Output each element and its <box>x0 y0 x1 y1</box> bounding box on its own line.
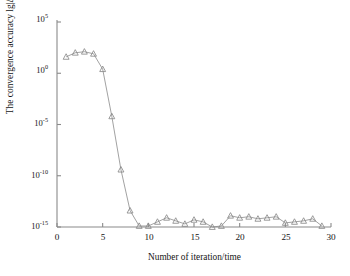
data-series-line <box>66 52 322 227</box>
axis-spines <box>57 20 331 227</box>
chart-figure: The convergence accuracy lg|Δx| Number o… <box>0 0 350 276</box>
y-tick-marks <box>57 22 61 227</box>
data-series-markers <box>63 49 325 230</box>
plot-canvas <box>0 0 350 276</box>
x-tick-marks <box>57 223 331 227</box>
